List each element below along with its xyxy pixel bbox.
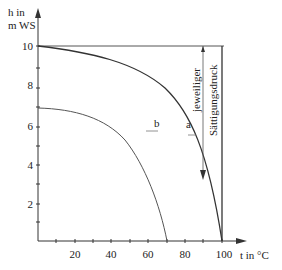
y-tick-2: 2 [19,199,33,210]
x-tick-80: 80 [173,249,197,260]
x-axis-arrow-icon [236,238,247,244]
chart-plot [0,0,282,270]
x-tick-100: 100 [212,249,236,260]
y-tick-10: 10 [19,41,33,52]
x-tick-20: 20 [63,249,87,260]
y-tick-8: 8 [19,80,33,91]
annotation-jeweiliger: jeweiliger [190,68,202,112]
annotation-saettigungsdruck: Sättigungsdruck [207,65,219,137]
y-tick-4: 4 [19,160,33,171]
x-tick-40: 40 [99,249,123,260]
arrow-down-icon [200,170,206,180]
x-tick-60: 60 [136,249,160,260]
curve-a-label: a [186,118,191,130]
curve-b [38,108,167,241]
curve-b-label: b [154,117,160,129]
y-axis-label-line1: h in [8,6,25,18]
y-axis-label-line2: m WS [8,19,36,31]
y-tick-6: 6 [19,121,33,132]
arrow-up-icon [201,46,205,52]
y-axis-arrow-icon [35,8,41,18]
x-axis-label: t in °C [240,249,269,261]
